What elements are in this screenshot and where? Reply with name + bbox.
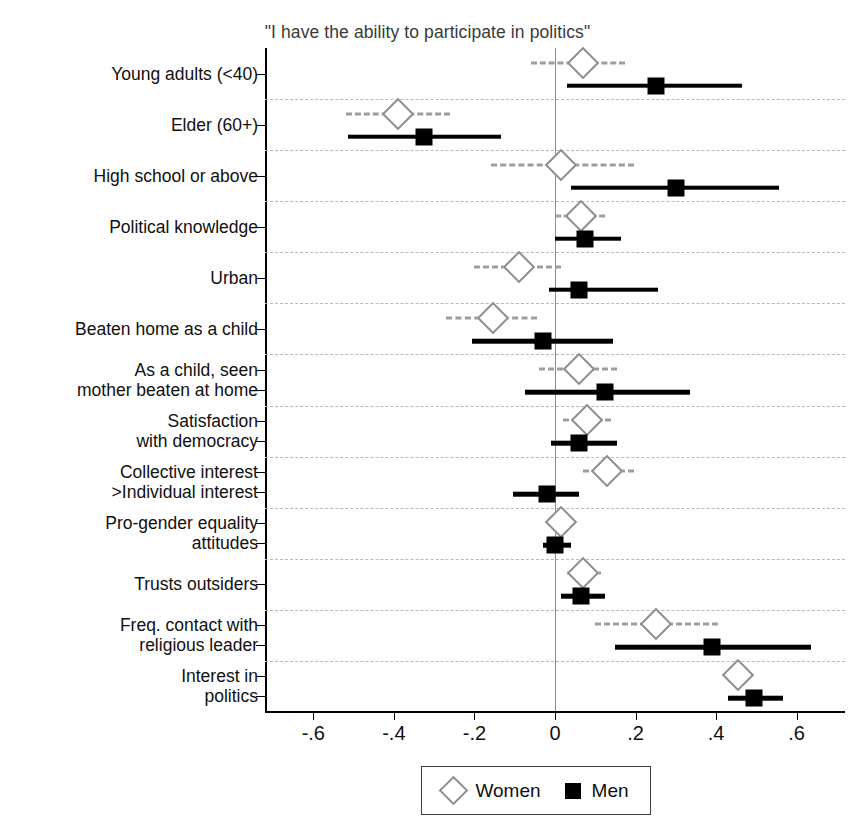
point-estimate-women <box>639 608 672 641</box>
point-estimate-men <box>647 77 664 94</box>
x-axis-tick-label: 0 <box>549 722 560 745</box>
x-axis-tick <box>474 711 475 720</box>
y-axis-tick <box>256 441 265 442</box>
gridline <box>265 150 845 151</box>
y-axis-tick <box>256 472 265 473</box>
y-axis-tick <box>256 645 265 646</box>
y-axis-tick <box>256 584 265 585</box>
y-axis-tick <box>256 329 265 330</box>
point-estimate-men <box>547 537 564 554</box>
x-axis-tick-label: -.2 <box>463 722 486 745</box>
point-estimate-women <box>476 302 509 335</box>
point-estimate-women <box>382 97 415 130</box>
point-estimate-men <box>577 230 594 247</box>
point-estimate-men <box>534 332 551 349</box>
gridline <box>265 508 845 509</box>
gridline <box>265 406 845 407</box>
y-axis-category-label: Political knowledge <box>109 217 258 237</box>
legend-item-men: Men <box>565 780 629 802</box>
y-axis-category-label: Pro-gender equality attitudes <box>105 513 258 553</box>
y-axis-category-label: Young adults (<40) <box>111 64 258 84</box>
confidence-interval-men <box>549 288 658 293</box>
gridline <box>265 99 845 100</box>
y-axis-tick <box>256 278 265 279</box>
y-axis-tick <box>256 74 265 75</box>
legend-item-women: Women <box>443 780 540 802</box>
y-axis-tick <box>256 421 265 422</box>
point-estimate-men <box>571 281 588 298</box>
gridline <box>265 661 845 662</box>
x-axis-tick <box>313 711 314 720</box>
point-estimate-women <box>502 251 535 284</box>
point-estimate-women <box>722 659 755 692</box>
point-estimate-men <box>416 128 433 145</box>
point-estimate-women <box>545 506 578 539</box>
point-estimate-women <box>591 455 624 488</box>
point-estimate-women <box>565 200 598 233</box>
y-axis-category-label: Satisfaction with democracy <box>136 411 258 451</box>
zero-reference-line <box>555 48 556 712</box>
x-axis-tick-label: -.4 <box>382 722 405 745</box>
point-estimate-women <box>571 404 604 437</box>
y-axis-tick <box>256 676 265 677</box>
filled-square-icon <box>565 783 581 799</box>
y-axis-category-label: High school or above <box>94 166 258 186</box>
point-estimate-women <box>567 557 600 590</box>
open-diamond-icon <box>439 776 469 806</box>
x-axis-tick <box>555 711 556 720</box>
x-axis-tick-label: .6 <box>788 722 805 745</box>
y-axis-category-label: Interest in politics <box>181 666 258 706</box>
y-axis-category-label: Urban <box>210 268 258 288</box>
legend-label-women: Women <box>475 780 540 802</box>
point-estimate-men <box>538 486 555 503</box>
x-axis-tick-label: -.6 <box>302 722 325 745</box>
x-axis-tick <box>797 711 798 720</box>
gridline <box>265 201 845 202</box>
point-estimate-men <box>573 588 590 605</box>
y-axis-category-label: Trusts outsiders <box>134 574 258 594</box>
point-estimate-women <box>563 353 596 386</box>
point-estimate-women <box>545 148 578 181</box>
gridline <box>265 303 845 304</box>
x-axis-tick-label: .4 <box>708 722 725 745</box>
gridline <box>265 610 845 611</box>
y-axis-tick <box>256 125 265 126</box>
gridline <box>265 457 845 458</box>
point-estimate-men <box>704 639 721 656</box>
y-axis-tick <box>256 625 265 626</box>
point-estimate-men <box>597 384 614 401</box>
gridline <box>265 252 845 253</box>
y-axis-category-label: Beaten home as a child <box>75 319 258 339</box>
point-estimate-women <box>567 46 600 79</box>
point-estimate-men <box>746 690 763 707</box>
x-axis-tick <box>636 711 637 720</box>
y-axis-category-label: Elder (60+) <box>171 115 258 135</box>
y-axis-category-label: Freq. contact with religious leader <box>120 615 258 655</box>
y-axis-tick <box>256 370 265 371</box>
legend-label-men: Men <box>592 780 629 802</box>
x-axis-tick-label: .2 <box>627 722 644 745</box>
y-axis-category-label: Collective interest >Individual interest <box>112 462 258 502</box>
point-estimate-men <box>571 435 588 452</box>
y-axis-tick <box>256 523 265 524</box>
point-estimate-men <box>667 179 684 196</box>
y-axis-tick <box>256 696 265 697</box>
y-axis-tick <box>256 543 265 544</box>
gridline <box>265 354 845 355</box>
gridline <box>265 559 845 560</box>
y-axis-category-label: As a child, seen mother beaten at home <box>77 360 258 400</box>
y-axis-tick <box>256 492 265 493</box>
coefficient-plot-figure: "I have the ability to participate in po… <box>0 0 855 838</box>
y-axis-category-labels: Young adults (<40)Elder (60+)High school… <box>0 0 258 838</box>
y-axis-tick <box>256 176 265 177</box>
plot-area <box>265 48 845 712</box>
y-axis-tick <box>256 390 265 391</box>
x-axis-tick <box>716 711 717 720</box>
y-axis-tick <box>256 227 265 228</box>
x-axis-tick <box>394 711 395 720</box>
legend: Women Men <box>421 766 651 815</box>
